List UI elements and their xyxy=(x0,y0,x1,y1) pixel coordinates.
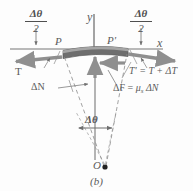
half-angle-denominator-left: 2 xyxy=(22,23,50,35)
belt-friction-diagram: Δθ 2 Δθ 2 y x P P' T T' = T + ΔT ΔN ΔF =… xyxy=(0,0,193,191)
point-label-p-prime: P' xyxy=(107,35,116,46)
center-point-marker xyxy=(102,164,107,169)
y-axis-label: y xyxy=(87,11,92,23)
half-angle-label-left: Δθ 2 xyxy=(22,8,50,34)
friction-mu-subscript: s xyxy=(141,87,144,95)
center-point-label: O xyxy=(93,160,101,171)
tension-left-label: T xyxy=(15,66,22,77)
half-angle-numerator-left: Δθ xyxy=(22,8,50,21)
friction-force-label: ΔF = μs ΔN xyxy=(113,83,158,95)
normal-label-leader xyxy=(58,84,88,88)
half-angle-tick-right xyxy=(130,50,137,64)
half-angle-denominator-right: 2 xyxy=(127,23,155,35)
half-angle-numerator-right: Δθ xyxy=(127,8,155,21)
full-angle-label: Δθ xyxy=(85,114,98,125)
tension-right-label: T' = T + ΔT xyxy=(129,66,177,76)
figure-caption: (b) xyxy=(90,176,103,187)
angle-guide-right xyxy=(106,112,117,164)
radius-line-left xyxy=(64,56,104,166)
half-angle-label-right: Δθ 2 xyxy=(127,8,155,34)
friction-delta-n: ΔN xyxy=(146,82,159,93)
friction-symbol: ΔF xyxy=(113,82,125,93)
point-label-p: P xyxy=(55,36,62,47)
friction-equals: = xyxy=(128,82,134,93)
radius-line-right xyxy=(106,54,127,166)
x-axis-label: x xyxy=(157,37,162,49)
normal-force-label: ΔN xyxy=(31,82,45,92)
